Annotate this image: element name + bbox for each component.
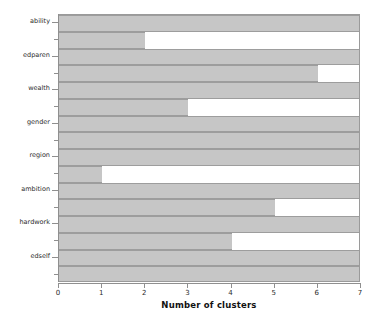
bar-row bbox=[59, 49, 359, 66]
bar bbox=[59, 199, 275, 216]
x-axis-tick bbox=[317, 283, 318, 288]
y-axis-tick-label: hardwork bbox=[2, 219, 50, 226]
bar-row bbox=[59, 216, 359, 233]
bar bbox=[59, 149, 360, 166]
x-axis-tick bbox=[231, 283, 232, 288]
x-axis-tick-label: 3 bbox=[177, 289, 197, 297]
bar bbox=[59, 65, 318, 82]
bar-row bbox=[59, 132, 359, 149]
x-axis-tick bbox=[274, 283, 275, 288]
y-axis-tick-label: ambition bbox=[2, 186, 50, 193]
bar bbox=[59, 216, 360, 233]
bar-row bbox=[59, 65, 359, 82]
bar bbox=[59, 82, 360, 99]
x-axis-line bbox=[58, 283, 360, 284]
x-axis-tick-label: 7 bbox=[350, 289, 370, 297]
bar bbox=[59, 183, 360, 200]
bar bbox=[59, 99, 188, 116]
bar-chart-figure: abilityedparenwealthgenderregionambition… bbox=[0, 0, 372, 319]
x-axis-tick bbox=[58, 283, 59, 288]
x-axis-title: Number of clusters bbox=[58, 300, 360, 310]
bar-row bbox=[59, 183, 359, 200]
bar-row bbox=[59, 199, 359, 216]
bar bbox=[59, 250, 360, 267]
y-axis-tick-label: region bbox=[2, 152, 50, 159]
bar bbox=[59, 49, 360, 66]
bar-row bbox=[59, 116, 359, 133]
bar-row bbox=[59, 99, 359, 116]
y-axis-tick-label: ability bbox=[2, 18, 50, 25]
bar-row bbox=[59, 250, 359, 267]
x-axis-tick-label: 1 bbox=[91, 289, 111, 297]
bar-row bbox=[59, 82, 359, 99]
y-axis-tick-label: gender bbox=[2, 119, 50, 126]
bar bbox=[59, 32, 145, 49]
bar bbox=[59, 233, 232, 250]
bar-row bbox=[59, 266, 359, 282]
y-axis-tick-label: wealth bbox=[2, 85, 50, 92]
x-axis-tick bbox=[360, 283, 361, 288]
bar bbox=[59, 266, 360, 282]
x-axis-tick bbox=[187, 283, 188, 288]
bar-row bbox=[59, 15, 359, 32]
x-axis-tick bbox=[144, 283, 145, 288]
y-axis-tick-label: edparen bbox=[2, 52, 50, 59]
x-axis-tick-label: 6 bbox=[307, 289, 327, 297]
bar bbox=[59, 132, 360, 149]
x-axis-tick-label: 4 bbox=[221, 289, 241, 297]
bar bbox=[59, 15, 360, 32]
y-axis-line bbox=[58, 14, 59, 282]
bar bbox=[59, 116, 360, 133]
y-axis-tick-label: edself bbox=[2, 253, 50, 260]
x-axis-tick bbox=[101, 283, 102, 288]
bar-row bbox=[59, 32, 359, 49]
x-axis-tick-label: 2 bbox=[134, 289, 154, 297]
x-axis-tick-label: 0 bbox=[48, 289, 68, 297]
bar-row bbox=[59, 233, 359, 250]
plot-area bbox=[58, 14, 360, 282]
x-axis-tick-label: 5 bbox=[264, 289, 284, 297]
bar-row bbox=[59, 166, 359, 183]
bar bbox=[59, 166, 102, 183]
bar-row bbox=[59, 149, 359, 166]
